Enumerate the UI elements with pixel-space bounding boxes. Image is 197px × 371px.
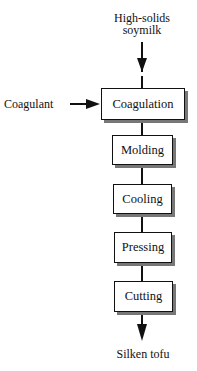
step-label: Coagulation <box>112 97 173 112</box>
input-label-line2: soymilk <box>112 24 172 36</box>
step-molding: Molding <box>112 135 173 165</box>
output-label: Silken tofu <box>112 348 174 360</box>
step-coagulation: Coagulation <box>101 88 185 120</box>
arrow-head-icon <box>137 58 147 72</box>
step-label: Cooling <box>122 192 162 207</box>
step-label: Cutting <box>125 289 163 304</box>
arrow-head-icon <box>86 99 100 109</box>
step-cutting: Cutting <box>114 281 173 312</box>
coagulant-label: Coagulant <box>4 98 68 110</box>
step-pressing: Pressing <box>114 232 172 263</box>
step-cooling: Cooling <box>113 184 172 214</box>
step-label: Pressing <box>122 240 164 255</box>
step-label: Molding <box>121 143 164 158</box>
arrow-head-icon <box>137 324 147 341</box>
